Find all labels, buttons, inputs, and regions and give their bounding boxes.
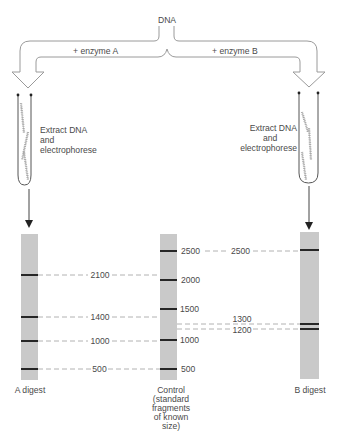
dna-helix-icon	[302, 112, 311, 180]
lane-a	[21, 234, 38, 380]
size-label-1000: 1000	[90, 336, 109, 346]
control-label-1500: 1500	[180, 304, 199, 314]
extract-caption-line-3: electrophorese	[240, 143, 297, 153]
tube-a: Extract DNA and electrophorese	[17, 94, 97, 228]
branch-arrow: DNA + enzyme A + enzyme B	[12, 15, 325, 88]
dna-label: DNA	[158, 15, 176, 25]
control-label-1000: 1000	[180, 335, 199, 345]
test-tube-icon	[299, 93, 318, 183]
band-1000	[21, 340, 38, 342]
band-2500	[160, 250, 177, 252]
tube-rim-dot	[30, 94, 33, 97]
band-1300	[300, 323, 319, 325]
band-500	[21, 368, 38, 370]
dna-helix-icon	[21, 103, 28, 180]
band-2100	[21, 274, 38, 276]
gel-lane-b	[300, 232, 319, 379]
size-label-2100: 2100	[90, 270, 109, 280]
guides-control-to-b: 2500 1300 1200	[177, 246, 300, 335]
restriction-digest-diagram: DNA + enzyme A + enzyme B Extract DNA an…	[0, 0, 337, 440]
size-label-1400: 1400	[90, 312, 109, 322]
tube-b: Extract DNA and electrophorese	[240, 92, 319, 230]
band-1000	[160, 339, 177, 341]
control-label-2000: 2000	[181, 275, 200, 285]
b-size-label-2500: 2500	[231, 246, 250, 256]
guides-a-to-control: 2100 1400 1000 500	[38, 270, 160, 374]
control-label-2500: 2500	[181, 246, 200, 256]
size-label-500: 500	[92, 364, 107, 374]
tube-rim-dot	[17, 94, 20, 97]
extract-caption-line-2: and	[40, 135, 55, 145]
enzyme-a-label: + enzyme A	[73, 46, 118, 56]
extract-caption-line-1: Extract DNA	[250, 123, 298, 133]
band-1500	[160, 308, 177, 310]
extract-caption-line-3: electrophorese	[40, 145, 97, 155]
extract-caption-line-1: Extract DNA	[40, 125, 88, 135]
lane-b-caption: B digest	[294, 385, 326, 395]
control-size-labels: 2500 2000 1500 1000 500	[180, 246, 200, 374]
band-500	[160, 368, 177, 370]
lane-a-caption: A digest	[15, 385, 46, 395]
gel-lane-control	[160, 234, 177, 380]
tube-rim-dot	[317, 92, 320, 95]
lane-control	[160, 234, 177, 380]
gel-lane-a	[21, 234, 38, 380]
extract-caption-line-2: and	[263, 133, 278, 143]
control-label-500: 500	[181, 364, 196, 374]
b-size-label-1200: 1200	[232, 325, 251, 335]
lane-b	[300, 232, 319, 379]
split-arrow-outline	[12, 26, 325, 88]
down-arrow-icon	[305, 222, 313, 230]
band-2000	[160, 279, 177, 281]
control-caption-line: size)	[162, 421, 180, 431]
tube-rim-dot	[298, 92, 301, 95]
band-1400	[21, 316, 38, 318]
band-1200	[300, 328, 319, 330]
test-tube-icon	[18, 95, 31, 185]
b-size-label-1300: 1300	[232, 314, 251, 324]
down-arrow-icon	[25, 220, 33, 228]
band-2500	[300, 249, 319, 251]
lane-control-caption: Control (standard fragments of known siz…	[152, 385, 190, 431]
enzyme-b-label: + enzyme B	[212, 46, 258, 56]
